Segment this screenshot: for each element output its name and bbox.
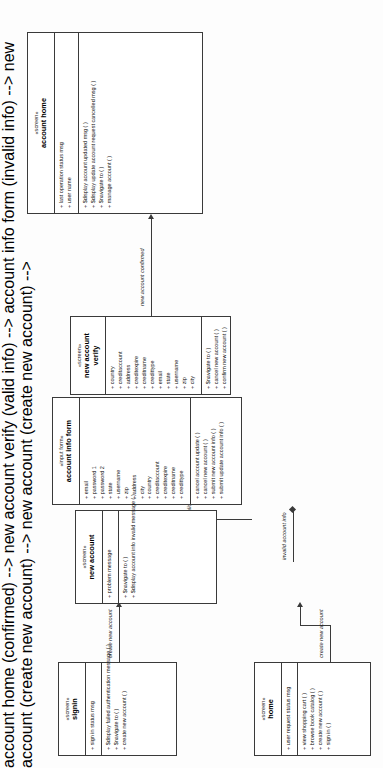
class-attributes-signin: + sign in status msg (86, 663, 102, 755)
edge-invalid-info-segment (293, 508, 294, 562)
attribute-row: + password 2 (99, 403, 107, 499)
class-header-home: «screen» home (255, 663, 282, 755)
class-title: new account verify (83, 323, 100, 388)
class-operations-signin: + $display failed authentication message… (102, 663, 133, 755)
attribute-row: + creditexpire (162, 403, 170, 499)
class-header-new-account-verify: «screen» new account verify (71, 317, 106, 394)
attribute-row: + credittype (149, 322, 157, 389)
operation-row: + $display failed authentication message… (105, 668, 113, 750)
class-box-new-account[interactable]: «screen» new account + problem message +… (75, 510, 217, 604)
attribute-row: + creditname (170, 403, 178, 499)
attribute-row: + sign in status msg (89, 668, 97, 750)
edge-create-new-account-signin-segment (119, 604, 120, 662)
class-attributes-account-home: + last operation status msg + user name (55, 33, 79, 213)
edge-new-account-confirmed-segment (151, 216, 152, 316)
attribute-row: + state (107, 403, 115, 499)
operation-row: + view shopping cart ( ) (301, 668, 309, 750)
attribute-row: + username (173, 322, 181, 389)
class-header-signin: «screen» signin (59, 663, 86, 755)
attribute-row: + address (131, 403, 139, 499)
attribute-row: + city (139, 403, 147, 499)
class-operations-account-info-form: + cancel account update ( ) + cancel new… (191, 398, 230, 504)
diagram-rotator: account home (confirmed) --> new account… (0, 0, 383, 768)
class-operations-home: + view shopping cart ( ) + browse book c… (298, 663, 337, 755)
operation-row: + $display account info invalid message … (130, 516, 138, 598)
attribute-row: + last operation status msg (58, 38, 66, 208)
operation-row: + cancel new account ( ) (202, 403, 210, 499)
attribute-row: + creditaccount (154, 403, 162, 499)
attribute-row: + address (125, 322, 133, 389)
class-header-new-account: «screen» new account (76, 511, 103, 603)
class-attributes-home: + user request status msg (282, 663, 298, 755)
attribute-row: + credittype (178, 403, 186, 499)
class-header-account-home: «screen» account home (28, 33, 55, 213)
operation-row: + $navigate to ( ) (205, 322, 213, 389)
attribute-row: + state (165, 322, 173, 389)
attribute-row: + username (115, 403, 123, 499)
attribute-row: + email (157, 322, 165, 389)
operation-row: + submit update account info ( ) (218, 403, 226, 499)
edge-create-new-account-home-riser (300, 625, 331, 626)
operation-row: + $navigate to ( ) (122, 516, 130, 598)
class-box-new-account-verify[interactable]: «screen» new account verify + country + … (70, 316, 231, 395)
attribute-row: + user request status msg (285, 668, 293, 750)
operation-row: + confirm new account ( ) (221, 322, 229, 389)
attribute-row: + problem message (106, 516, 114, 598)
edge-label-new-account-confirmed: new account confirmed (139, 248, 145, 306)
operation-row: + create new account ( ) (121, 668, 129, 750)
edge-label-create-new-account-home: create new account (318, 609, 324, 658)
attribute-row: + user name (66, 38, 74, 208)
attribute-row: + zip (123, 403, 131, 499)
edge-new-account-confirmed-arrowhead (148, 214, 154, 219)
edge-invalid-info-diamond (289, 506, 296, 513)
class-title: home (267, 669, 276, 749)
class-attributes-account-info-form: + email + password 1 + password 2 + stat… (80, 398, 192, 504)
class-box-home[interactable]: «screen» home + user request status msg … (254, 662, 371, 756)
attribute-row: + country (146, 403, 154, 499)
edge-create-new-account-home-top (300, 604, 301, 626)
class-box-signin[interactable]: «screen» signin + sign in status msg + $… (58, 662, 177, 756)
class-operations-new-account: + $navigate to ( ) + $display account in… (119, 511, 142, 603)
attribute-row: + creditexpire (133, 322, 141, 389)
attribute-row: + creditname (141, 322, 149, 389)
class-attributes-new-account: + problem message (103, 511, 119, 603)
attribute-row: + email (83, 403, 91, 499)
class-title: account home (40, 39, 49, 207)
class-box-account-info-form[interactable]: «input form» account info form + email +… (52, 397, 242, 505)
operation-row: + $navigate to ( ) (98, 38, 106, 208)
operation-row: + sign in ( ) (325, 668, 333, 750)
operation-row: + $navigate to ( ) (113, 668, 121, 750)
operation-row: + $display update account request cancel… (90, 38, 98, 208)
class-title: new account (88, 517, 97, 597)
attribute-row: + creditaccount (117, 322, 125, 389)
attribute-row: + zip (181, 322, 189, 389)
operation-row: + manage account ( ) (106, 38, 114, 208)
class-operations-account-home: + $display account updated msg ( ) + $di… (79, 33, 118, 213)
class-operations-new-account-verify: + $navigate to ( ) + cancel new account … (202, 317, 233, 394)
attribute-row: + city (189, 322, 197, 389)
attribute-row: + password 1 (91, 403, 99, 499)
uml-diagram-canvas: account home (confirmed) --> new account… (0, 0, 383, 768)
operation-row: + $display account updated msg ( ) (82, 38, 90, 208)
edge-create-new-account-home-arrowhead (297, 602, 303, 607)
operation-row: + submit new account info ( ) (210, 403, 218, 499)
class-header-account-info-form: «input form» account info form (53, 398, 80, 504)
class-title: signin (71, 669, 80, 749)
operation-row: + cancel new account ( ) (213, 322, 221, 389)
edge-label-invalid-account-info: invalid account info (281, 512, 287, 560)
attribute-row: + country (109, 322, 117, 389)
class-attributes-new-account-verify: + country + creditaccount + address + cr… (106, 317, 202, 394)
operation-row: + cancel account update ( ) (194, 403, 202, 499)
edge-create-new-account-home-segment (330, 626, 331, 662)
class-box-account-home[interactable]: «screen» account home + last operation s… (27, 32, 203, 214)
operation-row: + browse book catalog ( ) (309, 668, 317, 750)
class-title: account info form (65, 404, 74, 498)
operation-row: + create new account ( ) (317, 668, 325, 750)
